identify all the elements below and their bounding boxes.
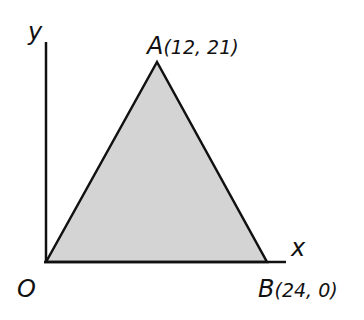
- triangle-oab: [46, 62, 267, 262]
- origin-label: O: [17, 275, 36, 303]
- y-axis-label: y: [27, 18, 43, 46]
- triangle-diagram: y x O A(12, 21) B(24, 0): [0, 0, 364, 320]
- point-a-label: A(12, 21): [145, 32, 239, 60]
- point-b-label: B(24, 0): [258, 275, 338, 303]
- x-axis-label: x: [290, 234, 306, 262]
